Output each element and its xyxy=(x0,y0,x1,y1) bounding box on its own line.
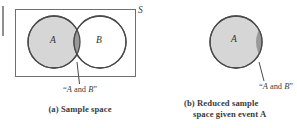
caption-panel-a: (a) Sample space xyxy=(0,104,160,115)
panel-reduced-sample-space: A “A and B” (b) Reduced samplespace give… xyxy=(160,0,297,128)
intersection-label-a: “A and B” xyxy=(0,85,160,94)
panel-sample-space: S A B “A and B” (a) Sample space xyxy=(0,0,160,128)
circle-a-reduced-label: A xyxy=(231,34,237,44)
label-conjunction: and xyxy=(268,82,284,91)
venn-figure: S A B “A and B” (a) Sample space A “ xyxy=(0,0,297,128)
caption-panel-b-line2: space given event A xyxy=(184,109,297,120)
sample-space-label: S xyxy=(138,5,143,15)
caption-panel-b: (b) Reduced samplespace given event A xyxy=(160,98,297,119)
label-conjunction: and xyxy=(72,85,88,94)
circle-b-label: B xyxy=(96,35,102,45)
quote-close: ” xyxy=(289,82,293,91)
intersection-label-b: “A and B” xyxy=(160,82,295,91)
leader-line-b xyxy=(259,62,264,81)
caption-panel-b-line1: (b) Reduced sample xyxy=(184,98,258,108)
leader-line-a xyxy=(77,62,80,84)
circle-a-label: A xyxy=(50,35,56,45)
quote-close: ” xyxy=(93,85,97,94)
